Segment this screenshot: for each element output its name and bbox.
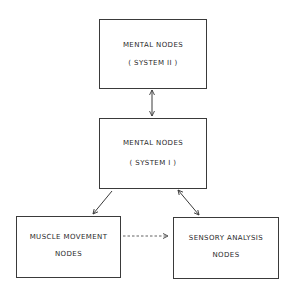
node-label: MENTAL NODES [100, 41, 206, 49]
node-sublabel: NODES [17, 250, 120, 258]
diagram-canvas: MENTAL NODES ( SYSTEM II ) MENTAL NODES … [0, 0, 291, 291]
node-label: SENSORY ANALYSIS [174, 234, 278, 242]
node-sublabel: ( SYSTEM II ) [100, 59, 206, 67]
node-sublabel: ( SYSTEM I ) [100, 159, 206, 167]
edge-system1-muscle [93, 191, 112, 214]
node-mental-system-2: MENTAL NODES ( SYSTEM II ) [99, 19, 207, 89]
node-mental-system-1: MENTAL NODES ( SYSTEM I ) [99, 118, 207, 189]
node-muscle-movement: MUSCLE MOVEMENT NODES [16, 216, 121, 278]
node-sublabel: NODES [174, 251, 278, 259]
edge-system1-sensory [178, 190, 199, 215]
node-sensory-analysis: SENSORY ANALYSIS NODES [173, 217, 279, 279]
node-label: MUSCLE MOVEMENT [17, 233, 120, 241]
node-label: MENTAL NODES [100, 139, 206, 147]
